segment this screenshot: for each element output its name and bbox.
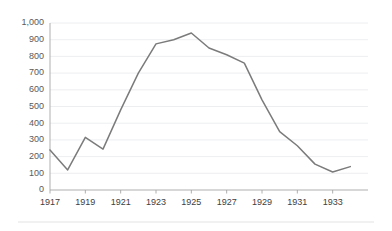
line-chart: 01002003004005006007008009001,000 191719… (0, 0, 392, 231)
x-axis-tick-labels: 191719191921192319251927192919311933 (40, 197, 343, 207)
gridlines (50, 23, 368, 173)
x-axis-tick-label: 1921 (111, 197, 131, 207)
x-axis-tick-label: 1919 (75, 197, 95, 207)
x-axis-tick-marks (50, 190, 333, 194)
data-series-line (50, 33, 350, 172)
y-axis-tick-label: 900 (29, 34, 44, 44)
y-axis-tick-label: 500 (29, 101, 44, 111)
chart-canvas: 01002003004005006007008009001,000 191719… (0, 0, 392, 231)
y-axis-tick-labels: 01002003004005006007008009001,000 (21, 17, 44, 194)
x-axis-tick-label: 1917 (40, 197, 60, 207)
x-axis-tick-label: 1929 (252, 197, 272, 207)
y-axis-tick-label: 1,000 (21, 17, 44, 27)
x-axis-tick-label: 1925 (181, 197, 201, 207)
y-axis-tick-label: 0 (39, 184, 44, 194)
y-axis-tick-label: 700 (29, 67, 44, 77)
x-axis-tick-label: 1931 (287, 197, 307, 207)
x-axis-tick-label: 1927 (217, 197, 237, 207)
x-axis-tick-label: 1923 (146, 197, 166, 207)
y-axis-tick-label: 200 (29, 151, 44, 161)
y-axis-tick-label: 300 (29, 134, 44, 144)
y-axis-tick-label: 400 (29, 118, 44, 128)
y-axis-tick-label: 800 (29, 51, 44, 61)
y-axis-tick-label: 100 (29, 168, 44, 178)
x-axis-tick-label: 1933 (323, 197, 343, 207)
y-axis-tick-label: 600 (29, 84, 44, 94)
